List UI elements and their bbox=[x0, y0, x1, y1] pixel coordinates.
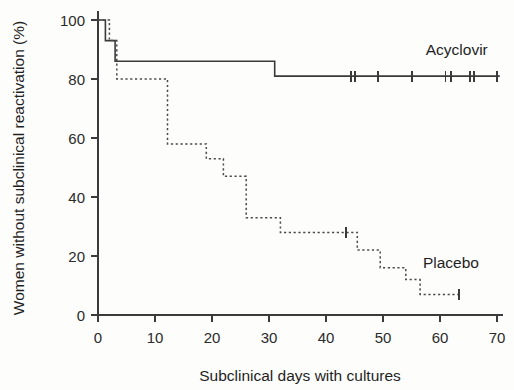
y-axis-title: Women without subclinical reactivation (… bbox=[10, 21, 27, 315]
series-label-placebo: Placebo bbox=[423, 254, 479, 271]
survival-plot: 020406080100 010203040506070 AcyclovirPl… bbox=[0, 0, 514, 390]
x-tick-label: 70 bbox=[489, 329, 506, 346]
y-tick-label: 100 bbox=[60, 12, 85, 29]
x-tick-label: 50 bbox=[375, 329, 392, 346]
x-tick-label: 60 bbox=[432, 329, 449, 346]
x-axis-title: Subclinical days with cultures bbox=[199, 367, 401, 384]
x-tick-label: 30 bbox=[261, 329, 278, 346]
y-tick-label: 40 bbox=[68, 189, 85, 206]
x-tick-label: 0 bbox=[94, 329, 102, 346]
x-axis-ticks: 010203040506070 bbox=[94, 315, 506, 346]
y-tick-label: 0 bbox=[77, 307, 85, 324]
y-tick-label: 80 bbox=[68, 71, 85, 88]
series-label-acyclovir: Acyclovir bbox=[426, 41, 488, 58]
y-tick-label: 20 bbox=[68, 248, 85, 265]
y-tick-label: 60 bbox=[68, 130, 85, 147]
x-tick-label: 10 bbox=[147, 329, 164, 346]
x-tick-label: 20 bbox=[204, 329, 221, 346]
kaplan-meier-figure: 020406080100 010203040506070 AcyclovirPl… bbox=[0, 0, 514, 390]
x-tick-label: 40 bbox=[318, 329, 335, 346]
y-axis-ticks: 020406080100 bbox=[60, 12, 98, 324]
